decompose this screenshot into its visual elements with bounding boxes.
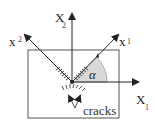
x2-prime-label: x 2 bbox=[9, 34, 22, 49]
svg-text:1: 1 bbox=[127, 37, 131, 46]
x2-label: X 2 bbox=[55, 10, 66, 30]
rotation-diagram: α cracks X 2 X 1 bbox=[0, 0, 155, 123]
svg-text:x: x bbox=[9, 34, 16, 49]
svg-text:2: 2 bbox=[18, 35, 22, 44]
x1-prime-label: x 1 bbox=[119, 34, 131, 49]
svg-text:x: x bbox=[119, 34, 126, 49]
angle-alpha-label: α bbox=[89, 67, 97, 82]
svg-text:1: 1 bbox=[145, 103, 149, 112]
cracks-label: cracks bbox=[83, 103, 116, 118]
crack-pointer-left bbox=[69, 96, 75, 108]
x1-label: X 1 bbox=[136, 92, 149, 112]
svg-text:2: 2 bbox=[62, 21, 66, 30]
crack-pointer-right bbox=[75, 96, 80, 108]
x2-prime-axis bbox=[25, 35, 72, 82]
origin-point bbox=[70, 80, 74, 84]
